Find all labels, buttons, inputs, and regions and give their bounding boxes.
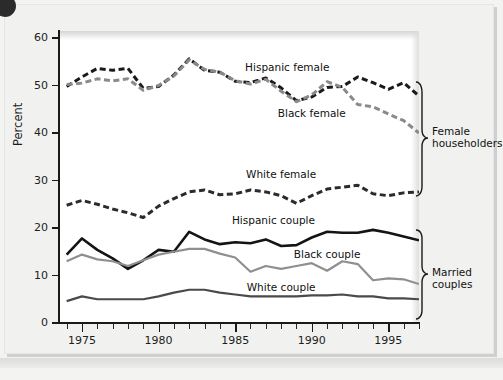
x-tick-minor (358, 324, 359, 329)
figure-frame: Percent 0102030405060 197519801985199019… (0, 0, 503, 380)
x-tick-label: 1985 (221, 334, 249, 347)
x-tick-label: 1975 (68, 334, 96, 347)
x-tick-minor (67, 324, 68, 329)
x-tick-major (82, 324, 84, 332)
y-tick-mark (52, 180, 58, 182)
y-tick-label: 60 (22, 33, 48, 43)
y-tick-label: 50 (22, 81, 48, 91)
y-tick-mark (52, 85, 58, 87)
series-label-black-couple: Black couple (294, 248, 361, 260)
x-tick-label: 1980 (145, 334, 173, 347)
group-label-married-couples: Marriedcouples (432, 266, 472, 290)
y-tick-label: 10 (22, 271, 48, 281)
y-axis-label: Percent (11, 103, 25, 146)
series-line-white-couple (67, 290, 419, 301)
x-tick-major (312, 324, 314, 332)
series-label-white-couple: White couple (247, 281, 316, 293)
brace-married-couples (416, 230, 428, 319)
y-tick-label: 0 (22, 318, 48, 328)
series-label-black-female: Black female (278, 107, 346, 119)
x-tick-minor (296, 324, 297, 329)
group-label-line: couples (432, 278, 472, 290)
x-tick-minor (220, 324, 221, 329)
x-tick-minor (281, 324, 282, 329)
x-tick-minor (327, 324, 328, 329)
y-tick-mark (52, 322, 58, 324)
x-tick-minor (419, 324, 420, 329)
x-tick-minor (373, 324, 374, 329)
x-tick-minor (266, 324, 267, 329)
y-tick-mark (52, 275, 58, 277)
group-label-female-householders: Femalehouseholders (432, 125, 503, 149)
series-line-hispanic-female (67, 59, 419, 101)
brace-female-householders (416, 82, 428, 196)
x-tick-minor (174, 324, 175, 329)
x-tick-label: 1990 (298, 334, 326, 347)
series-line-black-couple (67, 249, 419, 284)
x-tick-minor (342, 324, 343, 329)
corner-dot-decoration (0, 0, 16, 17)
y-tick-mark (52, 37, 58, 39)
x-tick-major (235, 324, 237, 332)
series-label-hispanic-female: Hispanic female (245, 61, 329, 73)
y-tick-mark (52, 227, 58, 229)
x-tick-minor (205, 324, 206, 329)
series-label-white-female: White female (246, 168, 316, 180)
y-tick-label: 20 (22, 223, 48, 233)
x-tick-minor (97, 324, 98, 329)
series-lines (59, 31, 419, 323)
group-label-line: householders (432, 137, 503, 149)
y-tick-label: 40 (22, 128, 48, 138)
page-bottom-band (0, 358, 503, 368)
x-tick-major (159, 324, 161, 332)
x-tick-minor (250, 324, 251, 329)
series-label-hispanic-couple: Hispanic couple (232, 214, 315, 226)
group-label-line: Female (432, 125, 503, 137)
series-line-white-female (67, 185, 419, 217)
group-label-line: Married (432, 266, 472, 278)
x-tick-minor (143, 324, 144, 329)
y-tick-label: 30 (22, 176, 48, 186)
x-tick-minor (113, 324, 114, 329)
x-tick-major (388, 324, 390, 332)
x-tick-minor (189, 324, 190, 329)
x-tick-minor (404, 324, 405, 329)
x-tick-label: 1995 (374, 334, 402, 347)
x-tick-minor (128, 324, 129, 329)
y-tick-mark (52, 132, 58, 134)
